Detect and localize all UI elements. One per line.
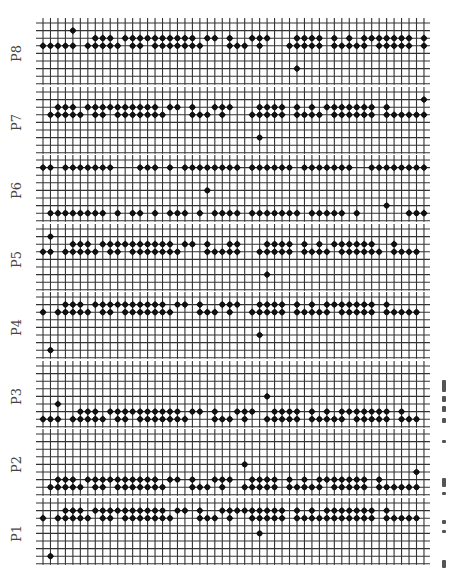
data-point-core <box>257 485 262 490</box>
data-point-core <box>138 516 143 521</box>
data-point-core <box>369 302 374 307</box>
data-point-core <box>391 36 396 41</box>
data-point-core <box>197 165 202 170</box>
data-point-core <box>167 409 172 414</box>
data-point-core <box>190 485 195 490</box>
data-point-core <box>317 516 322 521</box>
data-point-core <box>205 310 210 315</box>
data-point-core <box>152 165 157 170</box>
data-point-core <box>354 302 359 307</box>
data-point-core <box>55 310 60 315</box>
data-point-core <box>421 36 426 41</box>
data-point-core <box>257 332 262 337</box>
data-point-core <box>309 417 314 422</box>
data-point-core <box>167 249 172 254</box>
data-point-core <box>369 409 374 414</box>
data-point-core <box>70 508 75 513</box>
data-point-core <box>265 211 270 216</box>
data-point-core <box>197 485 202 490</box>
data-point-core <box>279 165 284 170</box>
data-point-core <box>287 242 292 247</box>
data-point-core <box>369 508 374 513</box>
data-point-core <box>257 302 262 307</box>
data-point-core <box>70 105 75 110</box>
data-point-core <box>48 485 53 490</box>
data-point-core <box>362 302 367 307</box>
data-point-core <box>279 242 284 247</box>
data-point-core <box>272 211 277 216</box>
data-point-core <box>100 417 105 422</box>
data-point-core <box>227 242 232 247</box>
data-point-core <box>190 43 195 48</box>
data-point-core <box>362 516 367 521</box>
data-point-core <box>152 43 157 48</box>
data-point-core <box>302 516 307 521</box>
data-point-core <box>130 105 135 110</box>
data-point-core <box>332 516 337 521</box>
data-point-core <box>55 477 60 482</box>
data-point-core <box>339 409 344 414</box>
data-point-core <box>250 36 255 41</box>
data-point-core <box>115 43 120 48</box>
data-point-core <box>347 508 352 513</box>
data-point-core <box>257 135 262 140</box>
data-point-core <box>130 43 135 48</box>
data-point-core <box>55 105 60 110</box>
data-point-core <box>257 310 262 315</box>
data-point-core <box>242 417 247 422</box>
data-point-core <box>324 508 329 513</box>
data-point-core <box>175 302 180 307</box>
data-point-core <box>347 112 352 117</box>
data-point-core <box>279 112 284 117</box>
data-point-core <box>235 211 240 216</box>
data-point-core <box>70 242 75 247</box>
data-point-core <box>235 409 240 414</box>
data-point-core <box>212 477 217 482</box>
data-point-core <box>123 310 128 315</box>
data-point-core <box>220 211 225 216</box>
data-point-core <box>347 409 352 414</box>
data-point-core <box>399 310 404 315</box>
data-point-core <box>421 165 426 170</box>
data-point-core <box>414 165 419 170</box>
data-point-core <box>63 105 68 110</box>
data-point-core <box>279 516 284 521</box>
data-point-core <box>205 242 210 247</box>
data-point-core <box>339 105 344 110</box>
data-point-core <box>377 417 382 422</box>
data-point-core <box>384 302 389 307</box>
data-point-core <box>287 249 292 254</box>
data-point-core <box>421 211 426 216</box>
data-point-core <box>100 485 105 490</box>
data-point-core <box>138 310 143 315</box>
data-point-core <box>377 409 382 414</box>
panel-grid-chart: P8P7P6P5P4P3P2P1 <box>0 0 451 576</box>
data-point-core <box>377 36 382 41</box>
data-point-core <box>48 249 53 254</box>
data-point-core <box>332 485 337 490</box>
data-point-core <box>175 105 180 110</box>
data-point-core <box>302 477 307 482</box>
data-point-core <box>399 165 404 170</box>
data-point-core <box>55 516 60 521</box>
data-point-core <box>309 105 314 110</box>
data-point-core <box>175 249 180 254</box>
data-point-core <box>93 417 98 422</box>
data-point-core <box>130 310 135 315</box>
data-point-core <box>324 302 329 307</box>
data-point-core <box>167 242 172 247</box>
data-point-core <box>152 105 157 110</box>
data-point-core <box>347 477 352 482</box>
data-point-core <box>115 105 120 110</box>
data-point-core <box>399 43 404 48</box>
panel-label: P6 <box>10 182 25 199</box>
data-point-core <box>235 242 240 247</box>
data-point-core <box>78 211 83 216</box>
data-point-core <box>175 409 180 414</box>
data-point-core <box>272 485 277 490</box>
data-point-core <box>70 310 75 315</box>
data-point-core <box>332 211 337 216</box>
data-point-core <box>421 112 426 117</box>
data-point-core <box>160 516 165 521</box>
data-point-core <box>152 249 157 254</box>
